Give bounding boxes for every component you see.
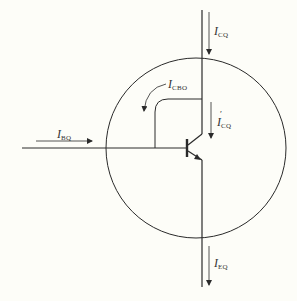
label-icq-prime-sub: CQ: [221, 122, 231, 130]
transistor-collector-lead: [188, 134, 202, 145]
label-icq-prime: I′CQ: [217, 116, 231, 130]
label-icq-prime-mark: ′: [220, 110, 222, 119]
label-ieq-sub: EQ: [218, 263, 228, 271]
label-icq-top-sub: CQ: [218, 31, 228, 39]
label-ieq: IEQ: [214, 257, 228, 271]
label-ibq-sub: BQ: [61, 134, 71, 142]
label-icq-top: ICQ: [214, 25, 228, 39]
label-ibq: IBQ: [57, 128, 71, 142]
transistor-current-diagram: ICQ ICBO I′CQ IBQ IEQ: [0, 0, 297, 301]
icbo-curved-arrow: [144, 84, 166, 111]
label-icbo: ICBO: [168, 78, 187, 92]
label-icq-prime-main-wrap: I′: [217, 115, 221, 129]
icbo-leakage-path: [155, 99, 202, 148]
label-icbo-sub: CBO: [172, 84, 187, 92]
circuit-drawing: [0, 0, 297, 301]
